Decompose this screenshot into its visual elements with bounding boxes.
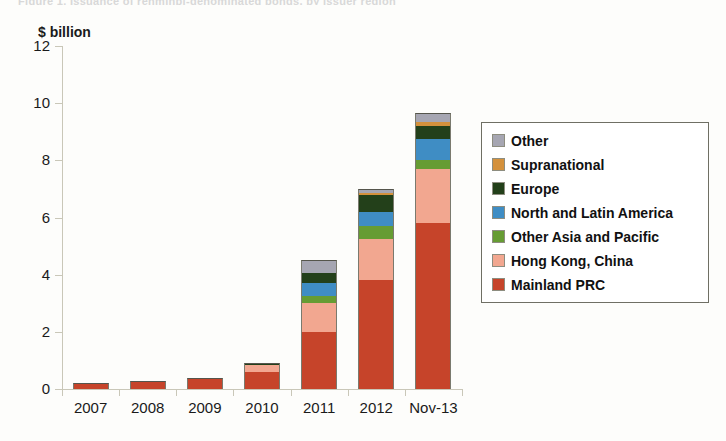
legend-swatch-icon [492, 230, 505, 243]
y-tick-label: 6 [14, 210, 50, 225]
bar-segment [415, 169, 451, 223]
x-tick-mark [291, 389, 292, 396]
bar-segment [301, 273, 337, 283]
legend-label: Hong Kong, China [511, 254, 633, 268]
legend-swatch-icon [492, 182, 505, 195]
x-tick-mark [348, 389, 349, 396]
x-tick-mark [62, 389, 63, 396]
x-axis-line [62, 389, 462, 390]
x-tick-mark [405, 389, 406, 396]
legend-item-mainland-prc[interactable]: Mainland PRC [492, 276, 700, 293]
x-tick-label: Nov-13 [398, 399, 468, 416]
bar-segment [358, 226, 394, 239]
y-tick-label: 2 [14, 324, 50, 339]
legend-label: Supranational [511, 158, 604, 172]
bar-segment [301, 332, 337, 389]
legend-label: Other Asia and Pacific [511, 230, 659, 244]
bar-segment [415, 126, 451, 139]
legend-item-hong-kong-china[interactable]: Hong Kong, China [492, 252, 700, 269]
legend-label: North and Latin America [511, 206, 673, 220]
x-tick-mark [233, 389, 234, 396]
bar-segment [301, 303, 337, 332]
bar-2009[interactable] [187, 378, 223, 389]
legend-swatch-icon [492, 158, 505, 171]
stacked-bar-chart: Figure 1. Issuance of renminbi-denominat… [0, 0, 726, 441]
y-tick-label: 8 [14, 152, 50, 167]
bar-segment [130, 381, 166, 389]
bar-2010[interactable] [244, 363, 280, 389]
legend-item-europe[interactable]: Europe [492, 180, 700, 197]
bar-segment [73, 383, 109, 389]
bar-segment [358, 280, 394, 389]
legend-item-north-and-latin-america[interactable]: North and Latin America [492, 204, 700, 221]
bar-segment [415, 139, 451, 160]
bar-segment [415, 160, 451, 169]
bar-segment [301, 260, 337, 273]
bar-segment [244, 365, 280, 372]
legend-swatch-icon [492, 254, 505, 267]
bar-segment [358, 212, 394, 226]
x-tick-mark [176, 389, 177, 396]
bar-segment [244, 372, 280, 389]
legend-item-supranational[interactable]: Supranational [492, 156, 700, 173]
bar-segment [301, 296, 337, 303]
y-tick-label: 0 [14, 381, 50, 396]
y-tick-label: 12 [14, 38, 50, 53]
legend-item-other-asia-and-pacific[interactable]: Other Asia and Pacific [492, 228, 700, 245]
bar-Nov-13[interactable] [415, 113, 451, 389]
bar-2012[interactable] [358, 189, 394, 389]
legend-item-other[interactable]: Other [492, 132, 700, 149]
bar-segment [415, 113, 451, 122]
legend-swatch-icon [492, 206, 505, 219]
legend-label: Europe [511, 182, 559, 196]
bar-2008[interactable] [130, 381, 166, 389]
bars-area [62, 46, 462, 389]
bar-segment [301, 283, 337, 296]
chart-legend: OtherSupranationalEuropeNorth and Latin … [481, 122, 709, 303]
cut-off-header-text: Figure 1. Issuance of renminbi-denominat… [18, 0, 396, 5]
x-tick-mark [119, 389, 120, 396]
bar-segment [187, 378, 223, 389]
legend-label: Mainland PRC [511, 278, 605, 292]
legend-swatch-icon [492, 134, 505, 147]
bar-2011[interactable] [301, 260, 337, 389]
bar-segment [358, 239, 394, 280]
legend-swatch-icon [492, 278, 505, 291]
y-tick-label: 10 [14, 95, 50, 110]
bar-segment [415, 223, 451, 389]
bar-segment [358, 195, 394, 212]
bar-2007[interactable] [73, 383, 109, 389]
legend-label: Other [511, 134, 548, 148]
x-tick-mark [462, 389, 463, 396]
y-tick-label: 4 [14, 267, 50, 282]
